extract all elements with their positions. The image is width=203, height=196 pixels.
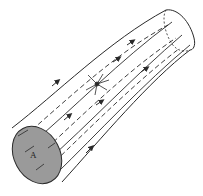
tube-far-end-dashed (164, 10, 190, 51)
interior-field-line-3 (44, 48, 180, 172)
arrow-icon (127, 41, 133, 45)
tube-top-edge (12, 10, 166, 128)
surface-field-line-2 (46, 35, 182, 162)
interior-field-line-2 (36, 38, 176, 158)
arrow-icon (52, 81, 58, 86)
arrow-icon (141, 68, 147, 72)
cross-section-a (3, 118, 72, 193)
cross-section-label: A (30, 150, 37, 160)
surface-field-line-1 (30, 22, 172, 145)
tube-far-end-solid (166, 10, 195, 50)
surface-field-line-3 (56, 45, 190, 174)
arrow-icon (64, 115, 70, 120)
flux-tube-diagram: A (0, 0, 203, 196)
